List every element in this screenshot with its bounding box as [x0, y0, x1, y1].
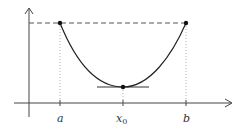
right-endpoint-dot	[184, 21, 188, 25]
convex-curve	[60, 23, 186, 87]
convex-function-diagram: a x0 b	[0, 0, 244, 128]
label-x0: x0	[116, 112, 127, 126]
label-x0-subscript: 0	[122, 117, 127, 126]
label-a: a	[57, 112, 64, 125]
label-b: b	[183, 112, 190, 125]
left-endpoint-dot	[58, 21, 62, 25]
y-axis	[25, 8, 33, 117]
minimum-dot	[121, 85, 125, 89]
